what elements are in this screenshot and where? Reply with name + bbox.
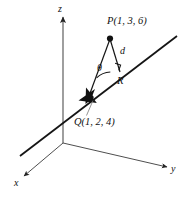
point-p-marker [107, 35, 113, 41]
segment-d-label: d [120, 46, 125, 56]
figure-canvas: z x y P(1, 3, 6) Q(1, 2, 4) d R θ [0, 0, 186, 198]
segment-d [110, 39, 120, 72]
point-p-label: P(1, 3, 6) [107, 16, 147, 27]
diagram-svg [0, 0, 186, 198]
point-r-label: R [117, 76, 123, 87]
y-axis-label: y [171, 164, 175, 174]
y-axis-line [63, 143, 167, 167]
line-through-q [20, 36, 177, 156]
z-axis-label: z [58, 4, 62, 14]
x-axis-label: x [14, 178, 18, 188]
point-q-label: Q(1, 2, 4) [74, 117, 115, 128]
angle-theta-label: θ [97, 63, 102, 73]
